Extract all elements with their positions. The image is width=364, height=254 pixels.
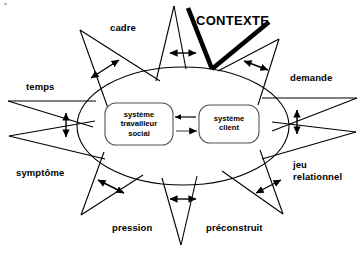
box-label-client: système client (199, 114, 259, 133)
spike-bottom (162, 176, 197, 245)
label-pression: pression (112, 222, 152, 233)
diagram-canvas: CONTEXTE cadre temps symptôme pression p… (0, 0, 364, 254)
arrow-cadre (91, 60, 119, 78)
label-cadre: cadre (110, 22, 136, 33)
arrow-pression (98, 180, 124, 193)
systemic-context-diagram (0, 0, 364, 254)
label-preconstruit: préconstruit (206, 222, 263, 233)
label-symptome: symptôme (16, 167, 64, 178)
arrow-jeu-relationnel (256, 180, 281, 193)
spike-top (156, 6, 186, 81)
spike-preconstruit (222, 150, 283, 214)
label-jeu-relationnel-line1: jeu (293, 159, 307, 170)
spike-pression (81, 152, 143, 215)
contexte-label: CONTEXTE (196, 13, 269, 28)
label-jeu-relationnel-line2: relationnel (293, 171, 342, 182)
label-demande: demande (290, 72, 332, 83)
box-label-worker: système travailleur social (105, 110, 173, 138)
label-temps: temps (26, 81, 54, 92)
arrow-demande-upper (244, 61, 268, 70)
